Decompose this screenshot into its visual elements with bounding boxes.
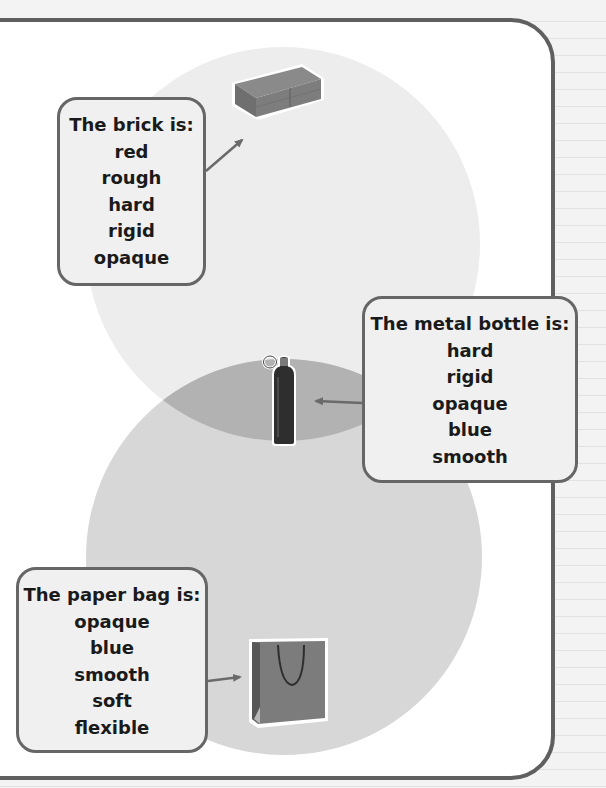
- paper-bag-icon: [248, 637, 330, 729]
- bag-arrow: [208, 677, 240, 681]
- brick-card-title: The brick is:: [60, 112, 203, 139]
- bag-property: blue: [19, 635, 205, 662]
- bag-card-title: The paper bag is:: [19, 582, 205, 609]
- brick-property: hard: [60, 192, 203, 219]
- bag-properties-card: The paper bag is: opaque blue smooth sof…: [16, 567, 208, 753]
- brick-arrow: [206, 140, 242, 171]
- bottle-property: opaque: [365, 391, 575, 418]
- bag-property: smooth: [19, 662, 205, 689]
- bottle-property: hard: [365, 338, 575, 365]
- bottle-card-title: The metal bottle is:: [365, 311, 575, 338]
- bag-property: opaque: [19, 609, 205, 636]
- brick-property: rough: [60, 165, 203, 192]
- bottle-icon: [262, 353, 302, 447]
- bottle-properties-card: The metal bottle is: hard rigid opaque b…: [362, 296, 578, 483]
- bag-property: flexible: [19, 715, 205, 742]
- bottle-property: smooth: [365, 444, 575, 471]
- bag-property: soft: [19, 688, 205, 715]
- bottle-property: rigid: [365, 364, 575, 391]
- brick-property: red: [60, 139, 203, 166]
- brick-icon: [230, 62, 326, 122]
- brick-properties-card: The brick is: red rough hard rigid opaqu…: [57, 97, 206, 286]
- brick-property: opaque: [60, 245, 203, 272]
- bottle-property: blue: [365, 417, 575, 444]
- brick-property: rigid: [60, 218, 203, 245]
